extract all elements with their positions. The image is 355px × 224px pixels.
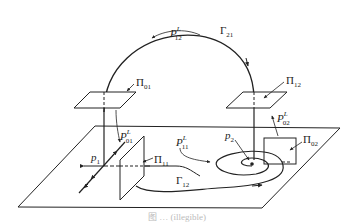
label-p2: p2 — [224, 129, 235, 144]
section-pi01 — [74, 92, 136, 108]
figure-caption: 图 … (illegible) — [148, 212, 206, 222]
label-p12: PL12 — [169, 25, 182, 42]
label-p1: p1 — [90, 151, 101, 166]
label-pi12: Π12 — [286, 74, 301, 89]
label-p11: PL11 — [175, 134, 189, 151]
section-pi12 — [226, 92, 287, 108]
label-gamma12: Γ12 — [176, 174, 190, 189]
label-pi02: Π02 — [303, 133, 318, 148]
label-gamma21: Γ21 — [220, 24, 234, 39]
label-p01: PL01 — [119, 128, 133, 145]
diagram-svg: Γ21 PL12 Π01 Π12 PL01 PL02 p1 Π11 PL11 p… — [0, 0, 355, 224]
diagram: Γ21 PL12 Π01 Π12 PL01 PL02 p1 Π11 PL11 p… — [0, 0, 355, 224]
manifold-p1 — [79, 142, 125, 193]
section-pi11 — [120, 136, 144, 200]
label-p02: PL02 — [276, 110, 290, 127]
section-pi02 — [264, 138, 296, 164]
label-pi01: Π01 — [136, 76, 151, 91]
